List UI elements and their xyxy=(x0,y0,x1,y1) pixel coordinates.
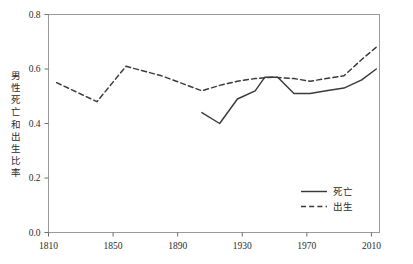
chart-background xyxy=(0,0,413,264)
y-tick-label-0.2: 0.2 xyxy=(29,173,41,183)
y-axis-title-char: 比 xyxy=(11,155,21,166)
y-tick-label-0.4: 0.4 xyxy=(29,119,41,129)
y-axis-title-char: 男 xyxy=(11,70,21,81)
line-chart: 0.00.20.40.60.8 181018501890193019702010… xyxy=(0,0,413,264)
y-axis-title-char: 死 xyxy=(11,94,21,105)
legend-label-deaths: 死亡 xyxy=(333,186,353,197)
x-tick-label-2010: 2010 xyxy=(362,241,381,251)
y-axis-title: 男性死亡和出生比率 xyxy=(11,70,21,179)
y-axis-title-char: 亡 xyxy=(11,106,21,117)
x-tick-label-1930: 1930 xyxy=(233,241,252,251)
y-axis-title-char: 和 xyxy=(11,119,21,130)
y-axis-title-char: 生 xyxy=(11,143,21,154)
y-axis-title-char: 率 xyxy=(11,167,21,178)
y-tick-label-0.8: 0.8 xyxy=(29,10,41,20)
y-axis-title-char: 出 xyxy=(11,131,21,142)
chart-container: 0.00.20.40.60.8 181018501890193019702010… xyxy=(0,0,413,264)
y-axis-title-char: 性 xyxy=(11,82,21,93)
x-tick-label-1890: 1890 xyxy=(168,241,187,251)
legend-label-births: 出生 xyxy=(333,201,353,212)
x-tick-label-1850: 1850 xyxy=(104,241,123,251)
y-tick-label-0.0: 0.0 xyxy=(29,228,41,238)
x-tick-label-1810: 1810 xyxy=(39,241,58,251)
x-tick-label-1970: 1970 xyxy=(297,241,316,251)
y-tick-label-0.6: 0.6 xyxy=(29,64,41,74)
